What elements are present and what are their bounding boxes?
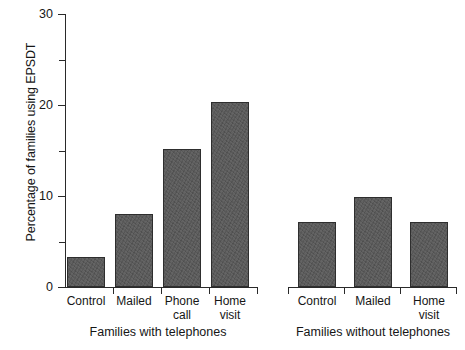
x-label-with-home-visit: Home visit (202, 295, 258, 322)
y-tick-10 (58, 196, 65, 197)
y-axis-spine (65, 14, 66, 288)
x-tick-5 (288, 288, 289, 294)
x-tick-8 (456, 288, 457, 294)
bar-without-control (298, 222, 336, 287)
x-label-without-control: Control (289, 295, 345, 309)
x-tick-4 (257, 288, 258, 294)
y-tick-label-0-wrap: 0 (0, 281, 53, 293)
y-tick-30 (58, 14, 65, 15)
bar-with-home-visit (211, 102, 249, 287)
x-label-without-mailed: Mailed (345, 295, 401, 309)
bar-without-mailed (354, 197, 392, 287)
y-tick-20 (58, 105, 65, 106)
bar-without-home-visit (410, 222, 448, 287)
x-tick-3 (209, 288, 210, 294)
group-label-without-telephones: Families without telephones (287, 325, 459, 340)
bar-chart-figure: Percentage of families using EPSDT 0 10 … (0, 0, 465, 350)
bar-with-phone-call (163, 149, 201, 287)
y-tick-label-20-wrap: 20 (0, 99, 53, 111)
y-tick-label-30: 30 (1, 8, 53, 20)
y-tick-0 (58, 287, 65, 288)
x-axis-spine-right (288, 287, 457, 288)
x-tick-2 (161, 288, 162, 294)
bar-with-control (67, 257, 105, 287)
y-tick-15 (59, 151, 65, 152)
y-tick-5 (59, 242, 65, 243)
y-axis-label: Percentage of families using EPSDT (22, 0, 40, 292)
y-tick-label-20: 20 (1, 99, 53, 111)
x-label-without-home-visit: Home visit (401, 295, 457, 322)
y-tick-label-0: 0 (1, 281, 53, 293)
group-label-with-telephones: Families with telephones (58, 325, 258, 340)
bar-with-mailed (115, 214, 153, 287)
x-tick-6 (344, 288, 345, 294)
y-tick-label-10: 10 (1, 190, 53, 202)
y-tick-25 (59, 60, 65, 61)
y-tick-label-10-wrap: 10 (0, 190, 53, 202)
x-tick-1 (113, 288, 114, 294)
x-tick-7 (400, 288, 401, 294)
y-tick-label-30-wrap: 30 (0, 8, 53, 20)
